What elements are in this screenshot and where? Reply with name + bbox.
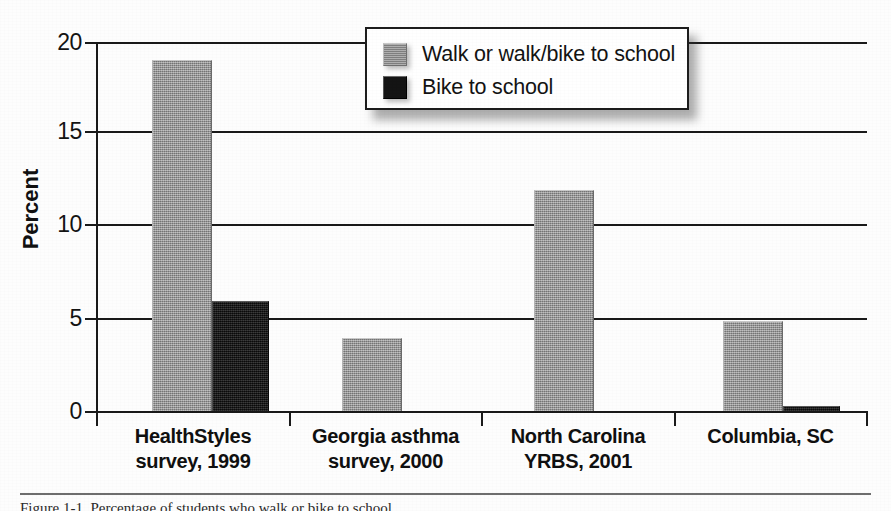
x-axis-category-labels: HealthStyles survey, 1999 Georgia asthma… <box>97 424 867 484</box>
y-tick-mark-20 <box>85 42 97 44</box>
y-tick-label-20: 20 <box>34 29 82 56</box>
caption-divider <box>20 493 871 495</box>
y-axis-line <box>96 42 98 413</box>
bar-fill <box>152 60 212 412</box>
legend-item-walk: Walk or walk/bike to school <box>383 38 687 71</box>
category-label-line2: survey, 2000 <box>289 449 482 474</box>
category-label-line2: survey, 1999 <box>97 449 289 474</box>
x-tick-mark-0 <box>96 412 98 426</box>
legend-label-bike: Bike to school <box>422 75 553 100</box>
gridline-15 <box>97 131 867 133</box>
category-label-line1: North Carolina <box>482 424 674 449</box>
bar-fill <box>534 190 594 412</box>
bar-georgia-walk <box>342 338 402 412</box>
y-tick-mark-15 <box>85 131 97 133</box>
x-tick-mark-2 <box>481 412 483 426</box>
y-tick-mark-5 <box>85 318 97 320</box>
figure-bar-chart: 20 15 10 5 0 Percent <box>0 0 891 511</box>
category-label-healthstyles: HealthStyles survey, 1999 <box>97 424 289 474</box>
legend-black-swatch-icon <box>383 76 407 99</box>
category-label-columbia: Columbia, SC <box>674 424 867 449</box>
category-label-line1: Columbia, SC <box>674 424 867 449</box>
category-label-north-carolina: North Carolina YRBS, 2001 <box>482 424 674 474</box>
bar-fill <box>342 338 402 412</box>
category-label-line2: YRBS, 2001 <box>482 449 674 474</box>
legend-label-walk: Walk or walk/bike to school <box>422 42 675 67</box>
category-label-georgia: Georgia asthma survey, 2000 <box>289 424 482 474</box>
figure-caption: Figure 1-1. Percentage of students who w… <box>20 500 871 511</box>
y-axis-title: Percent <box>18 134 44 284</box>
bar-north-carolina-walk <box>534 190 594 412</box>
bar-fill <box>723 321 783 412</box>
y-tick-mark-0 <box>85 411 97 413</box>
x-tick-mark-3 <box>674 412 676 426</box>
x-tick-mark-4 <box>866 412 868 426</box>
bar-fill <box>212 301 269 412</box>
gridline-10 <box>97 224 867 226</box>
bar-healthstyles-bike <box>212 301 269 412</box>
y-tick-label-5: 5 <box>34 305 82 332</box>
legend-item-bike: Bike to school <box>383 71 687 104</box>
legend-gray-swatch-icon <box>383 43 407 66</box>
chart-legend: Walk or walk/bike to school Bike to scho… <box>365 27 689 110</box>
y-tick-label-0: 0 <box>34 398 82 425</box>
bar-columbia-walk <box>723 321 783 412</box>
category-label-line1: HealthStyles <box>97 424 289 449</box>
category-label-line1: Georgia asthma <box>289 424 482 449</box>
x-tick-mark-1 <box>289 412 291 426</box>
y-tick-mark-10 <box>85 224 97 226</box>
bar-healthstyles-walk <box>152 60 212 412</box>
